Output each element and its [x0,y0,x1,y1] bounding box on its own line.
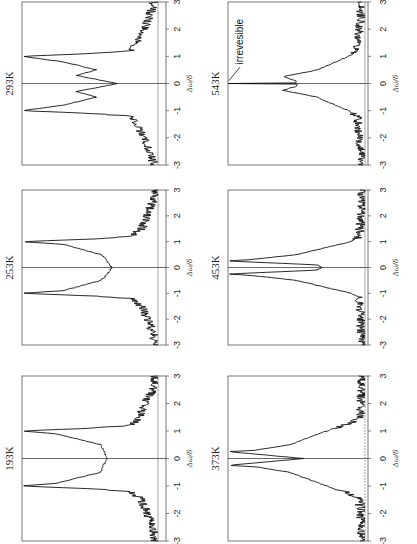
tick-label: 2 [172,401,182,406]
tick-label: -3 [378,341,388,349]
tick-label: -2 [378,134,388,142]
tick-label: 1 [172,54,182,59]
tick-label: -3 [172,537,182,544]
tick-label: -2 [378,315,388,323]
x-axis-label: Δω/δ [186,75,194,93]
x-axis-label: Δω/δ [392,259,400,277]
tick-label: 0 [172,456,182,461]
tick-label: -3 [172,161,182,169]
tick-label: -1 [172,107,182,115]
panel-title: 543K [209,71,221,96]
panel-title: 253K [3,255,15,280]
x-axis-label: Δω/δ [186,259,194,277]
tick-label: 1 [172,239,182,244]
panel-253K: -3-2-10123Δω/δ253K [3,187,194,349]
tick-label: -2 [172,315,182,323]
tick-label: 0 [172,265,182,270]
panel-293K: -3-2-10123Δω/δ293K [3,0,194,169]
tick-label: 3 [378,187,388,192]
x-axis-label: Δω/δ [186,450,194,468]
tick-label: -2 [172,134,182,142]
tick-label: 1 [378,428,388,433]
panel-193K: -3-2-10123Δω/δ193K [3,373,194,544]
tick-label: -2 [378,509,388,517]
tick-label: -3 [378,161,388,169]
tick-label: -3 [172,341,182,349]
panel-title: 453K [209,255,221,280]
tick-label: 2 [378,213,388,218]
panel-373K: -3-2-10123Δω/δ373K [209,373,400,544]
tick-label: 0 [172,81,182,86]
tick-label: -1 [378,289,388,297]
tick-label: 1 [172,428,182,433]
tick-label: 3 [378,373,388,378]
tick-label: 3 [172,0,182,5]
tick-label: -1 [172,482,182,490]
panel-title: 373K [209,446,221,471]
panel-title: 193K [3,446,15,471]
tick-label: 3 [378,0,388,5]
tick-label: 2 [172,27,182,32]
tick-label: 2 [172,213,182,218]
tick-label: 1 [378,54,388,59]
panel-543K: -3-2-10123Δω/δ543Kirrevesible [209,0,400,169]
x-axis-label: Δω/δ [392,450,400,468]
tick-label: -1 [172,289,182,297]
tick-label: -1 [378,107,388,115]
tick-label: -1 [378,482,388,490]
annotation-label: irrevesible [234,18,245,64]
tick-label: 3 [172,373,182,378]
x-axis-label: Δω/δ [392,75,400,93]
figure-canvas: -3-2-10123Δω/δ293K-3-2-10123Δω/δ253K-3-2… [0,0,417,544]
tick-label: 2 [378,401,388,406]
tick-label: 3 [172,187,182,192]
panel-453K: -3-2-10123Δω/δ453K [209,187,400,349]
tick-label: 0 [378,456,388,461]
tick-label: 0 [378,265,388,270]
tick-label: -2 [172,509,182,517]
tick-label: -3 [378,537,388,544]
panel-title: 293K [3,71,15,96]
annotation-leader [229,67,240,80]
tick-label: 0 [378,81,388,86]
tick-label: 2 [378,27,388,32]
tick-label: 1 [378,239,388,244]
